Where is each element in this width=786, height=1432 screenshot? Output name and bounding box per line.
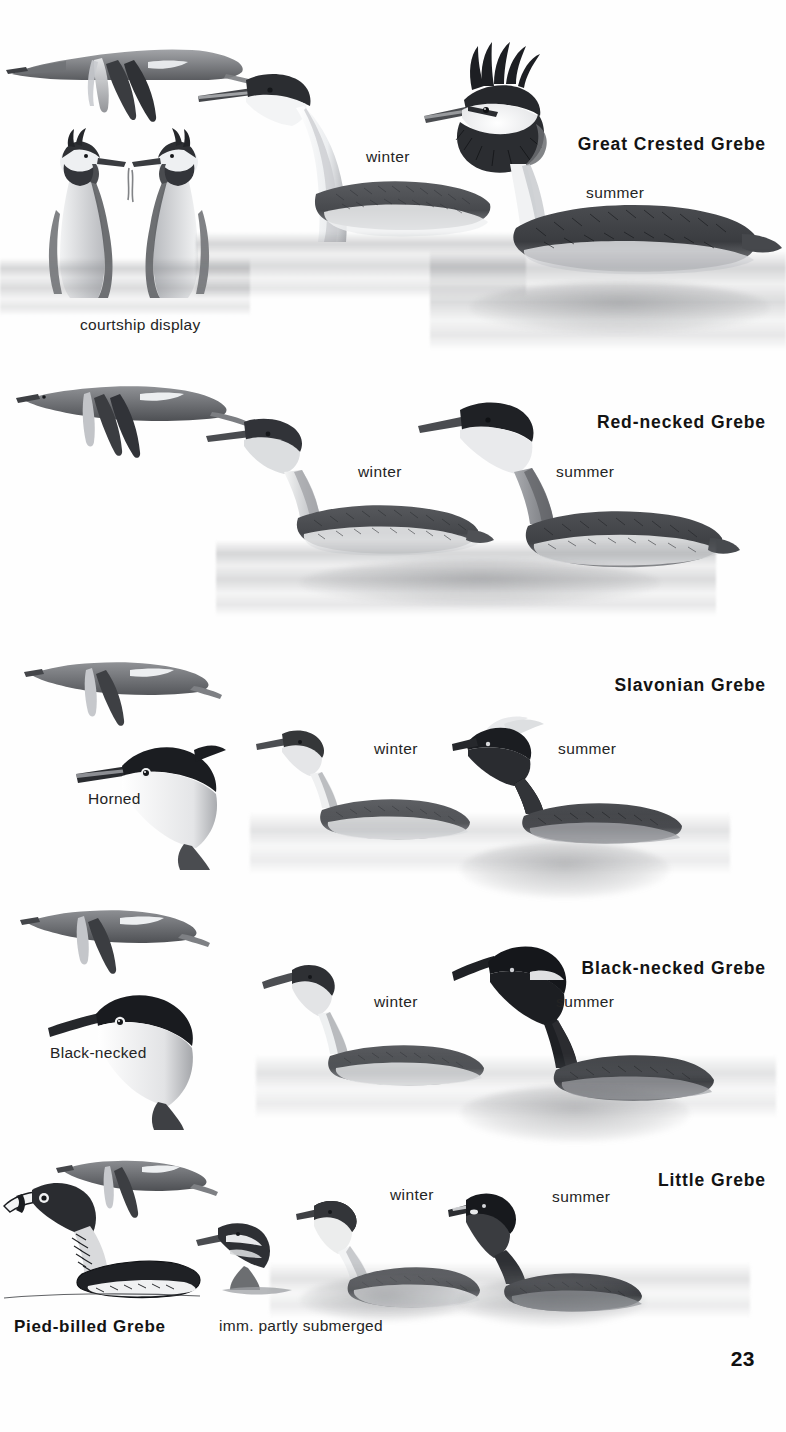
- slavonian-grebe-winter-illustration: [256, 726, 468, 838]
- pied-billed-grebe-illustration: [4, 1180, 200, 1304]
- species-title-great-crested-grebe: Great Crested Grebe: [578, 134, 766, 155]
- reflection-slavonian: [460, 842, 670, 898]
- caption-immature-partly-submerged: imm. partly submerged: [219, 1317, 383, 1335]
- season-label-red-necked-summer: summer: [556, 463, 614, 481]
- season-label-little-grebe-summer: summer: [552, 1188, 610, 1206]
- caption-courtship-display: courtship display: [80, 316, 201, 334]
- black-necked-grebe-flight-illustration: [20, 900, 210, 996]
- page-number: 23: [731, 1347, 755, 1371]
- caption-pied-billed-grebe: Pied-billed Grebe: [14, 1317, 166, 1337]
- season-label-great-crested-summer: summer: [586, 184, 644, 202]
- slavonian-grebe-flight-illustration: [24, 650, 224, 746]
- species-title-black-necked-grebe: Black-necked Grebe: [582, 958, 766, 979]
- slavonian-grebe-summer-illustration: [452, 716, 682, 842]
- season-label-black-necked-winter: winter: [374, 993, 418, 1011]
- field-guide-plate: Great Crested Grebe winter summer courts…: [0, 0, 786, 1432]
- immature-grebe-submerged-illustration: [196, 1216, 306, 1302]
- little-grebe-summer-illustration: [448, 1190, 644, 1300]
- species-title-little-grebe: Little Grebe: [658, 1170, 766, 1191]
- species-title-slavonian-grebe: Slavonian Grebe: [614, 675, 766, 696]
- season-label-slavonian-summer: summer: [558, 740, 616, 758]
- caption-horned: Horned: [88, 790, 141, 808]
- season-label-little-grebe-winter: winter: [390, 1186, 434, 1204]
- season-label-red-necked-winter: winter: [358, 463, 402, 481]
- great-crested-grebe-summer-illustration: [424, 38, 786, 308]
- species-title-red-necked-grebe: Red-necked Grebe: [597, 412, 766, 433]
- season-label-great-crested-winter: winter: [366, 148, 410, 166]
- black-necked-grebe-winter-illustration: [262, 962, 482, 1082]
- caption-black-necked: Black-necked: [50, 1044, 147, 1062]
- season-label-slavonian-winter: winter: [374, 740, 418, 758]
- season-label-black-necked-summer: summer: [556, 993, 614, 1011]
